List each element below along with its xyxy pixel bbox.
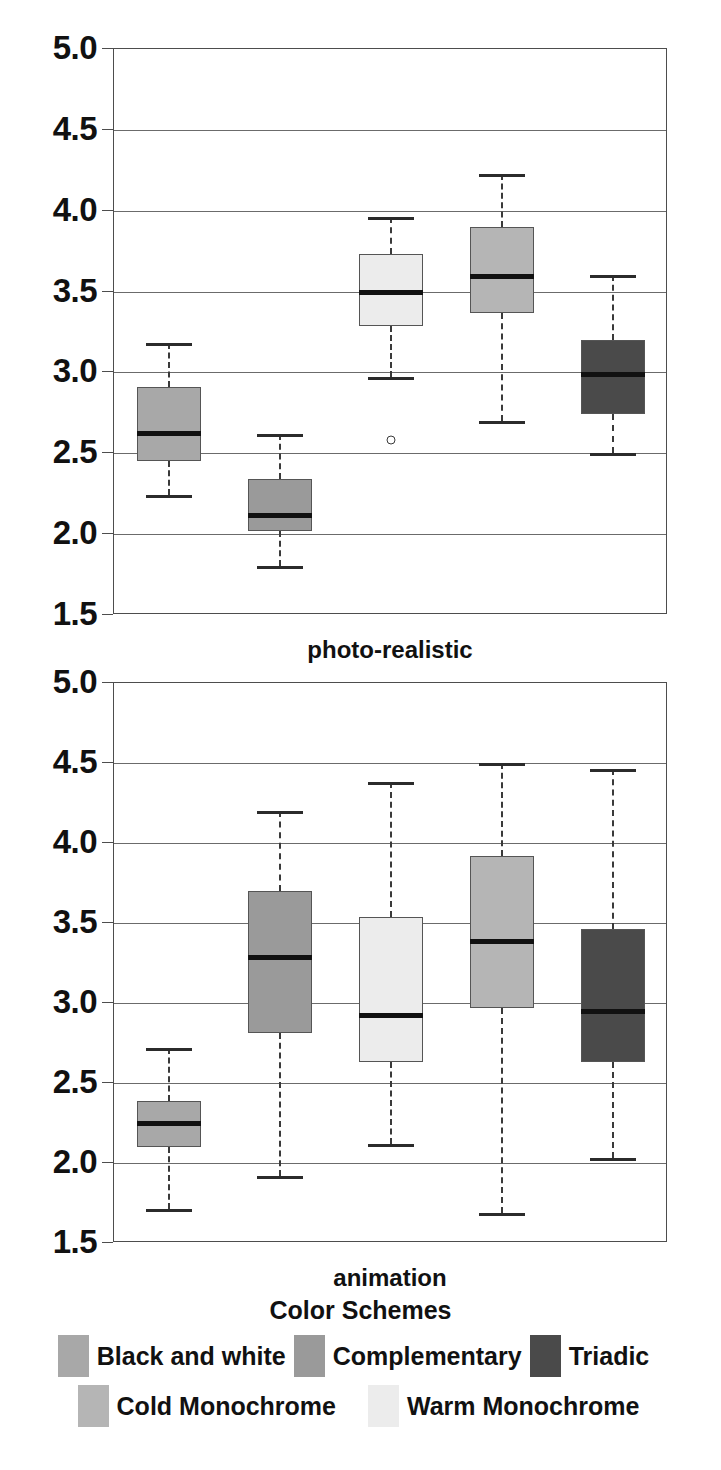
- y-axis-tick-label: 2.0: [11, 516, 97, 549]
- box-iqr: [470, 227, 534, 313]
- legend-swatch: [58, 1335, 89, 1377]
- whisker-cap-upper: [368, 217, 414, 220]
- whisker-lower: [501, 313, 503, 421]
- whisker-cap-upper: [479, 763, 525, 766]
- whisker-upper: [390, 782, 392, 916]
- box-iqr: [581, 929, 645, 1062]
- y-axis-tick-label: 1.5: [11, 597, 97, 630]
- median-line: [248, 513, 312, 518]
- median-line: [581, 372, 645, 377]
- y-axis-tick-label: 3.0: [11, 985, 97, 1018]
- whisker-cap-lower: [257, 1176, 303, 1179]
- box-iqr: [470, 856, 534, 1008]
- y-axis-tick: [102, 452, 113, 453]
- y-axis-tick: [102, 922, 113, 923]
- figure-title-clipped: [0, 0, 721, 12]
- whisker-cap-lower: [479, 421, 525, 424]
- y-axis-tick: [102, 762, 113, 763]
- y-axis-tick-label: 5.0: [11, 31, 97, 64]
- whisker-cap-upper: [257, 434, 303, 437]
- y-axis-animation: 5.04.54.03.53.02.52.01.5: [0, 658, 113, 1288]
- box-iqr: [248, 479, 312, 531]
- legend-swatch: [368, 1385, 399, 1427]
- whisker-upper: [168, 1048, 170, 1101]
- y-axis-tick: [102, 48, 113, 49]
- legend-swatch: [530, 1335, 561, 1377]
- plot-area-animation: [113, 682, 667, 1242]
- whisker-lower: [612, 414, 614, 453]
- whisker-lower: [279, 531, 281, 567]
- legend-entry[interactable]: Complementary: [294, 1335, 522, 1377]
- y-axis-tick-label: 4.5: [11, 112, 97, 145]
- whisker-cap-upper: [368, 782, 414, 785]
- legend-label: Complementary: [333, 1342, 522, 1371]
- whisker-cap-lower: [590, 453, 636, 456]
- whisker-upper: [168, 343, 170, 387]
- box-iqr: [137, 387, 201, 461]
- whisker-cap-upper: [146, 1048, 192, 1051]
- median-line: [470, 939, 534, 944]
- legend-swatch: [294, 1335, 325, 1377]
- box-plot-group: [225, 683, 336, 1241]
- legend-entry[interactable]: Black and white: [58, 1335, 286, 1377]
- whisker-cap-upper: [590, 275, 636, 278]
- whisker-lower: [501, 1008, 503, 1213]
- legend: Color Schemes Black and whiteComplementa…: [0, 1296, 721, 1435]
- y-axis-tick-label: 2.0: [11, 1145, 97, 1178]
- whisker-cap-lower: [479, 1213, 525, 1216]
- y-axis-tick: [102, 210, 113, 211]
- y-axis-tick: [102, 1082, 113, 1083]
- whisker-lower: [390, 1062, 392, 1144]
- legend-row: Cold MonochromeWarm Monochrome: [0, 1385, 721, 1427]
- box-iqr: [248, 891, 312, 1033]
- y-axis-tick-label: 2.5: [11, 1065, 97, 1098]
- whisker-cap-lower: [146, 495, 192, 498]
- median-line: [359, 290, 423, 295]
- y-axis-tick-label: 4.0: [11, 825, 97, 858]
- y-axis-tick: [102, 291, 113, 292]
- y-axis-tick: [102, 1002, 113, 1003]
- median-line: [137, 431, 201, 436]
- whisker-cap-upper: [479, 174, 525, 177]
- y-axis-tick: [102, 1162, 113, 1163]
- whisker-upper: [501, 763, 503, 856]
- y-axis-tick: [102, 371, 113, 372]
- whisker-lower: [612, 1062, 614, 1158]
- y-axis-tick-label: 1.5: [11, 1225, 97, 1258]
- whisker-upper: [279, 434, 281, 479]
- box-plot-group: [336, 49, 447, 613]
- legend-entry[interactable]: Warm Monochrome: [368, 1385, 639, 1427]
- whisker-cap-upper: [146, 343, 192, 346]
- y-axis-tick-label: 3.5: [11, 274, 97, 307]
- whisker-upper: [501, 174, 503, 227]
- whisker-lower: [168, 1147, 170, 1209]
- y-axis-tick: [102, 614, 113, 615]
- legend-swatch: [78, 1385, 109, 1427]
- median-line: [248, 955, 312, 960]
- median-line: [470, 274, 534, 279]
- box-plot-group: [446, 49, 557, 613]
- median-line: [137, 1121, 201, 1126]
- legend-row: Black and whiteComplementaryTriadic: [0, 1335, 721, 1377]
- y-axis-tick-label: 3.0: [11, 354, 97, 387]
- legend-entry[interactable]: Cold Monochrome: [78, 1385, 336, 1427]
- y-axis-tick-label: 4.5: [11, 745, 97, 778]
- panel-animation: 5.04.54.03.53.02.52.01.5 animation: [0, 658, 721, 1288]
- box-plot-group: [557, 49, 668, 613]
- whisker-cap-lower: [257, 566, 303, 569]
- y-axis-tick: [102, 129, 113, 130]
- whisker-lower: [390, 326, 392, 378]
- whisker-cap-lower: [368, 377, 414, 380]
- box-plot-group: [114, 49, 225, 613]
- y-axis-tick-label: 3.5: [11, 905, 97, 938]
- legend-entry[interactable]: Triadic: [530, 1335, 650, 1377]
- median-line: [359, 1013, 423, 1018]
- y-axis-tick-label: 2.5: [11, 435, 97, 468]
- y-axis-tick-label: 4.0: [11, 193, 97, 226]
- whisker-upper: [279, 811, 281, 891]
- whisker-upper: [612, 275, 614, 340]
- whisker-lower: [279, 1033, 281, 1175]
- plot-area-photo-realistic: [113, 48, 667, 614]
- legend-label: Black and white: [97, 1342, 286, 1371]
- legend-label: Cold Monochrome: [117, 1392, 336, 1421]
